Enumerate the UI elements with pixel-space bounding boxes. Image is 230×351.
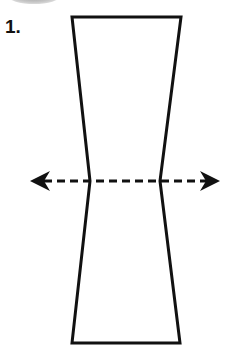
hourglass-diagram — [0, 0, 230, 351]
